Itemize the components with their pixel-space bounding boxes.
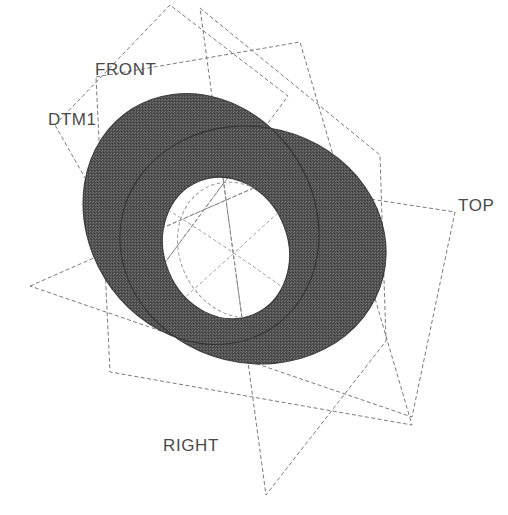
datum-label-top[interactable]: TOP	[458, 197, 494, 214]
cad-scene	[0, 0, 508, 515]
cad-viewport[interactable]: FRONT DTM1 TOP RIGHT	[0, 0, 508, 515]
solid-body[interactable]	[0, 0, 508, 515]
datum-label-right[interactable]: RIGHT	[163, 437, 219, 454]
datum-label-dtm1[interactable]: DTM1	[48, 111, 97, 128]
datum-label-front[interactable]: FRONT	[95, 61, 157, 78]
